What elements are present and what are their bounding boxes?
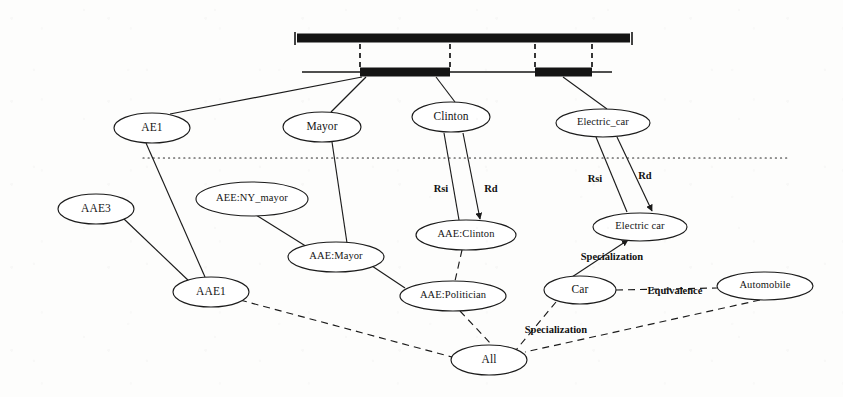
edge-label-rsi-electric-car: Rsi [588,173,603,184]
node-label: AAE:Mayor [309,250,363,261]
edge-clinton-rsi [444,133,459,220]
node-label: AAE:Clinton [437,228,495,239]
edge-aae3-aae1 [124,219,191,283]
node-label: Electric_car [577,116,629,127]
node-aae1[interactable]: AAE1 [173,277,249,307]
node-aae3[interactable]: AAE3 [58,194,134,224]
node-mayor[interactable]: Mayor [283,112,361,142]
edge-clinton-rd [463,133,480,219]
node-aae-mayor[interactable]: AAE:Mayor [288,242,384,272]
node-label: Clinton [433,110,468,122]
edge-bar-clinton [436,77,455,102]
diagram-svg: AE1 Mayor Clinton Electric_car AAE3 AEE:… [0,0,843,397]
edge-aae-politician-all [460,311,492,345]
entity-edges [124,133,652,288]
node-label: AAE:Politician [420,289,487,300]
timeline-to-entity-edges [170,77,607,114]
node-electric-car-entity[interactable]: Electric_car [556,109,650,137]
node-aae-clinton[interactable]: AAE:Clinton [416,220,516,250]
timeline-group [295,32,632,72]
node-aee-ny-mayor[interactable]: AEE:NY_mayor [196,182,308,216]
node-label: AAE1 [196,285,226,297]
edge-aae-clinton-aae-politician [455,250,462,281]
node-label: Car [572,283,589,295]
node-label: All [482,353,497,365]
edge-bar-ae1 [170,77,362,114]
edge-label-equivalence: Equivalence [648,285,703,296]
edge-aee-ny-mayor-aae-mayor [256,215,312,250]
edge-mayor-aae-mayor [332,142,347,243]
node-label: AAE3 [81,202,111,214]
edge-label-rd-electric-car: Rd [638,170,652,181]
node-all[interactable]: All [451,345,527,375]
node-electric-car-concept[interactable]: Electric car [593,213,687,241]
edge-bar-electric-car [563,77,607,109]
edge-aae-mayor-aae-politician [372,266,405,288]
edge-ae1-aae1 [146,143,205,277]
node-ae1[interactable]: AE1 [114,113,190,143]
node-clinton[interactable]: Clinton [412,102,490,132]
node-automobile[interactable]: Automobile [717,272,813,300]
diagram-canvas: AE1 Mayor Clinton Electric_car AAE3 AEE:… [0,0,843,397]
edge-label-specialization-car: Specialization [581,251,644,262]
node-label: Mayor [306,120,337,133]
node-label: AEE:NY_mayor [216,192,288,203]
edge-aae1-all [240,300,452,357]
node-label: Electric car [615,220,665,231]
edge-label-rd-clinton: Rd [484,183,498,194]
edge-label-specialization-all: Specialization [525,324,588,335]
node-label: AE1 [141,121,163,133]
node-aae-politician[interactable]: AAE:Politician [400,281,506,311]
node-label: Automobile [739,279,790,290]
edge-label-rsi-clinton: Rsi [434,183,449,194]
node-car[interactable]: Car [544,276,616,304]
